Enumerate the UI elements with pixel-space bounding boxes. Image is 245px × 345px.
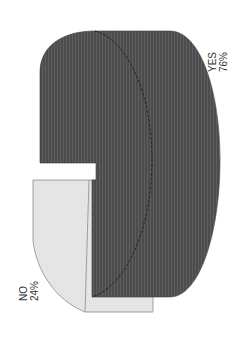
label-yes: YES 76% — [207, 52, 229, 72]
label-yes-pct: 76% — [218, 52, 229, 72]
label-no-pct: 24% — [29, 281, 40, 301]
label-no: NO 24% — [18, 281, 40, 301]
label-yes-name: YES — [207, 52, 218, 72]
label-no-name: NO — [18, 281, 29, 301]
